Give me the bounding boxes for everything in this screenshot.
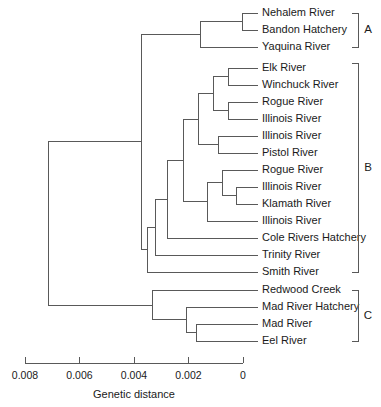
tree-branches bbox=[48, 13, 258, 341]
leaf-label-13: Cole Rivers Hatchery bbox=[262, 231, 366, 243]
leaf-label-10: Illinois River bbox=[262, 180, 322, 192]
leaf-label-2: Yaquina River bbox=[262, 40, 331, 52]
axis-tick-label-2: 0.004 bbox=[121, 369, 147, 381]
leaf-label-17: Mad River Hatchery bbox=[262, 300, 360, 312]
leaf-label-8: Pistol River bbox=[262, 146, 318, 158]
group-brackets: A B C bbox=[352, 13, 372, 341]
leaf-label-7: Illinois River bbox=[262, 129, 322, 141]
bracket-group-a bbox=[352, 13, 358, 47]
phylogenetic-tree-chart: Nehalem River Bandon Hatchery Yaquina Ri… bbox=[0, 0, 381, 407]
axis-tick-label-3: 0.002 bbox=[175, 369, 201, 381]
group-label-c: C bbox=[364, 309, 372, 321]
leaf-label-1: Bandon Hatchery bbox=[262, 23, 347, 35]
x-axis: 0.008 0.006 0.004 0.002 0 Genetic distan… bbox=[12, 357, 246, 400]
leaf-label-0: Nehalem River bbox=[262, 6, 335, 18]
leaf-label-16: Redwood Creek bbox=[262, 283, 341, 295]
dendrogram-figure: Nehalem River Bandon Hatchery Yaquina Ri… bbox=[0, 0, 381, 407]
group-label-a: A bbox=[364, 23, 372, 35]
leaf-labels: Nehalem River Bandon Hatchery Yaquina Ri… bbox=[262, 6, 366, 346]
leaf-label-5: Rogue River bbox=[262, 95, 323, 107]
leaf-label-15: Smith River bbox=[262, 265, 319, 277]
axis-tick-label-4: 0 bbox=[240, 369, 246, 381]
x-axis-title: Genetic distance bbox=[93, 388, 175, 400]
axis-tick-label-0: 0.008 bbox=[12, 369, 38, 381]
axis-tick-label-1: 0.006 bbox=[66, 369, 92, 381]
leaf-label-19: Eel River bbox=[262, 334, 307, 346]
leaf-label-18: Mad River bbox=[262, 317, 312, 329]
leaf-label-12: Illinois River bbox=[262, 214, 322, 226]
leaf-label-6: Illinois River bbox=[262, 112, 322, 124]
leaf-label-11: Klamath River bbox=[262, 197, 331, 209]
group-label-b: B bbox=[364, 161, 372, 173]
leaf-label-3: Elk River bbox=[262, 61, 306, 73]
leaf-label-4: Winchuck River bbox=[262, 78, 339, 90]
bracket-group-c bbox=[352, 290, 358, 341]
leaf-label-9: Rogue River bbox=[262, 163, 323, 175]
leaf-label-14: Trinity River bbox=[262, 248, 321, 260]
